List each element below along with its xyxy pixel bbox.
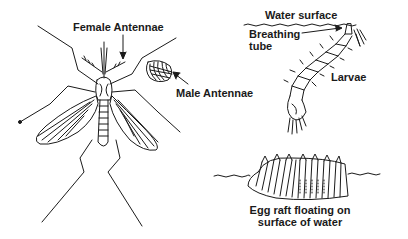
egg-raft-label-line1: Egg raft floating on bbox=[240, 204, 360, 216]
breathing-tube-label-line2: tube bbox=[249, 40, 300, 52]
water-surface-line bbox=[244, 24, 356, 26]
feathery-antenna-icon bbox=[146, 61, 172, 82]
egg-raft-label: Egg raft floating on surface of water bbox=[240, 204, 360, 228]
male-antennae-label: Male Antennae bbox=[176, 87, 253, 99]
water-surface-label: Water surface bbox=[265, 9, 337, 21]
female-antennae-label: Female Antennae bbox=[73, 21, 164, 33]
breathing-tube-label: Breathing tube bbox=[249, 28, 300, 52]
mosquito-lifecycle-diagram: Female Antennae Male Antennae Water surf… bbox=[0, 0, 408, 239]
mosquito-icon bbox=[19, 26, 181, 226]
breathing-tube-arrow bbox=[302, 28, 340, 33]
egg-raft-label-line2: surface of water bbox=[240, 216, 360, 228]
egg-raft-water-left bbox=[214, 175, 250, 177]
larvae-label: Larvae bbox=[331, 71, 366, 83]
egg-raft-icon bbox=[248, 154, 348, 200]
breathing-tube-label-line1: Breathing bbox=[249, 28, 300, 40]
egg-raft-water-right bbox=[348, 173, 380, 175]
